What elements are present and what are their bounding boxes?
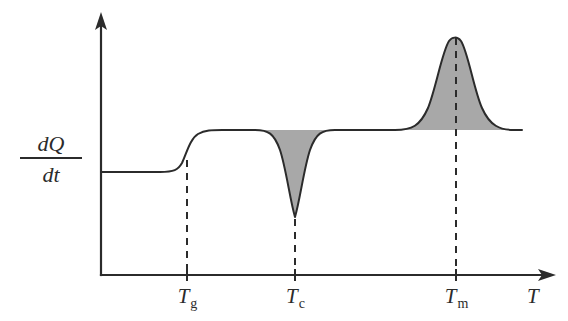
melting-peak-fill [395,38,514,130]
thermogram-canvas [0,0,568,321]
x-tick-label-tm: Tm [445,286,468,307]
crystallization-peak-fill [255,130,335,217]
dsc-thermogram-figure: dQ dt Tg Tc Tm T [0,0,568,321]
x-tick-label-tm-sub: m [457,296,468,311]
axes-group [95,12,556,281]
x-tick-label-tm-base: T [445,284,457,308]
y-axis-label-numerator: dQ [20,133,82,155]
x-tick-label-tg: Tg [178,286,197,307]
peak-fill-group [255,38,514,217]
x-axis-title: T [527,286,539,307]
x-tick-label-tc-base: T [286,284,298,308]
x-tick-label-tc: Tc [286,286,304,307]
x-tick-label-tg-base: T [178,284,190,308]
x-tick-label-tg-sub: g [190,296,197,311]
x-tick-label-tc-sub: c [299,296,305,311]
guide-lines-group [187,38,456,274]
y-axis-label-denominator: dt [20,164,82,186]
